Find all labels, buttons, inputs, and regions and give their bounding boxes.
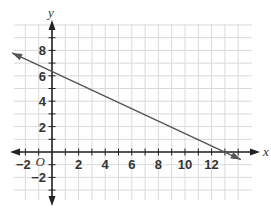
coordinate-plane: −224681012−22468Oxy <box>0 0 271 210</box>
x-tick-label: 2 <box>75 157 82 172</box>
x-tick-label: 12 <box>204 157 218 172</box>
y-tick-label: 6 <box>39 69 46 84</box>
x-axis-arrow-left-icon <box>10 149 20 156</box>
y-axis-arrow-down-icon <box>49 196 56 206</box>
data-line-segment <box>12 53 241 160</box>
y-tick-label: 2 <box>39 120 46 135</box>
y-tick-label: −2 <box>31 170 46 185</box>
x-tick-label: 10 <box>178 157 192 172</box>
x-axis-arrow-right-icon <box>250 149 260 156</box>
origin-label: O <box>36 154 46 169</box>
y-axis-label: y <box>46 5 54 20</box>
y-tick-label: 4 <box>39 94 47 109</box>
x-tick-label: 6 <box>128 157 135 172</box>
x-tick-label: 8 <box>155 157 162 172</box>
axes <box>10 20 260 206</box>
x-tick-label: −2 <box>16 157 31 172</box>
line-arrow-right-icon <box>230 152 241 159</box>
y-tick-label: 8 <box>39 43 46 58</box>
x-tick-label: 4 <box>102 157 110 172</box>
data-line <box>12 53 241 160</box>
line-arrow-left-icon <box>12 53 23 60</box>
x-axis-label: x <box>262 144 269 159</box>
